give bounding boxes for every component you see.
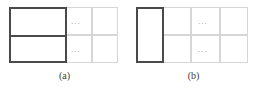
grid-cell [92, 35, 118, 63]
ellipsis-row1: ... [71, 17, 81, 26]
grid-cell [220, 35, 248, 63]
grid-cell [92, 7, 118, 35]
caption-a: (a) [0, 70, 129, 81]
ellipsis-row2: ... [198, 45, 208, 54]
grid-cell [163, 35, 191, 63]
highlighted-block-a-divider [9, 35, 67, 37]
figure-panel-a: ... ... (a) [0, 0, 129, 91]
ellipsis-row1: ... [198, 17, 208, 26]
grid-cell [163, 7, 191, 35]
caption-b: (b) [129, 70, 258, 81]
ellipsis-row2: ... [71, 45, 81, 54]
figure-panel-b: ... ... (b) [129, 0, 258, 91]
grid-cell [220, 7, 248, 35]
highlighted-block-b [136, 7, 164, 63]
